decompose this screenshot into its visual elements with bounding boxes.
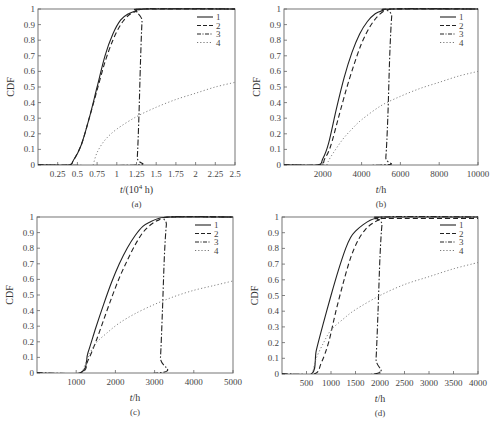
x-tick-label: 500 [300,378,314,388]
y-tick-label: 0.3 [24,113,36,123]
series-line-2 [37,217,233,374]
y-tick-label: 0.5 [270,82,282,92]
y-tick-label: 0.8 [268,243,280,253]
series-line-4 [93,82,235,165]
x-tick-label: 0.75 [89,169,105,179]
y-tick-label: 0.5 [268,291,280,301]
y-tick-label: 0 [277,160,282,170]
series-line-3 [284,8,478,165]
cdf-figure: 00.10.20.30.40.50.60.70.80.910.250.50.75… [0,0,494,425]
y-tick-label: 0.9 [24,20,36,30]
x-axis-label: t/(104 h) [120,183,153,196]
y-tick-label: 0.1 [24,144,35,154]
series-line-4 [327,71,478,165]
y-tick-label: 0.5 [23,290,35,300]
axes-frame [284,9,478,165]
axes-frame [38,9,235,165]
series-line-3 [37,216,233,374]
y-axis-label: CDF [5,77,16,97]
y-tick-label: 0.6 [24,66,36,76]
series-line-1 [37,217,233,375]
series-line-1 [38,9,235,165]
y-tick-label: 0.8 [270,35,282,45]
y-tick-label: 0.6 [268,275,280,285]
y-tick-label: 1 [277,4,282,14]
y-tick-label: 0.7 [24,51,36,61]
x-tick-label: 8000 [430,169,449,179]
y-tick-label: 0.9 [268,228,280,238]
y-tick-label: 0.5 [24,82,36,92]
x-tick-label: 3000 [146,377,165,387]
panel-label: (c) [130,407,140,417]
legend-label: 4 [459,246,464,256]
legend-label: 4 [214,246,219,256]
x-tick-label: 2.5 [229,169,241,179]
y-tick-label: 0 [275,369,280,379]
x-axis-label: t/h [375,393,386,404]
y-tick-label: 0.3 [270,113,282,123]
panel-a: 00.10.20.30.40.50.60.70.80.910.250.50.75… [5,4,241,209]
x-tick-label: 2000 [314,169,333,179]
series-line-1 [284,9,478,166]
x-tick-label: 2000 [371,378,390,388]
x-tick-label: 2500 [396,378,415,388]
x-tick-label: 2000 [106,377,125,387]
x-tick-label: 1.25 [129,169,145,179]
panel-label: (a) [132,199,142,209]
y-tick-label: 0.7 [270,51,282,61]
axes-frame [37,217,233,373]
x-axis-label: t/h [376,184,387,195]
x-tick-label: 1.75 [168,169,184,179]
axes-frame [282,217,478,374]
series-line-4 [312,263,478,374]
y-tick-label: 0.8 [23,243,35,253]
y-tick-label: 0.9 [23,228,35,238]
y-tick-label: 0.4 [268,306,280,316]
y-axis-label: CDF [249,285,260,305]
panel-label: (b) [376,199,387,209]
panel-c: 00.10.20.30.40.50.60.70.80.9110002000300… [4,212,243,417]
y-tick-label: 0.3 [268,322,280,332]
panel-b: 00.10.20.30.40.50.60.70.80.9120004000600… [251,4,490,209]
y-axis-label: CDF [251,77,262,97]
y-tick-label: 1 [31,4,36,14]
x-tick-label: 0.25 [50,169,66,179]
y-tick-label: 0.4 [24,98,36,108]
y-tick-label: 0.4 [23,306,35,316]
y-tick-label: 0.7 [23,259,35,269]
x-tick-label: 4000 [185,377,204,387]
y-tick-label: 0 [30,368,35,378]
y-tick-label: 0.1 [23,352,34,362]
y-tick-label: 0.3 [23,321,35,331]
x-tick-label: 1500 [347,378,366,388]
x-tick-label: 1 [115,169,120,179]
series-line-2 [284,9,478,166]
x-tick-label: 4000 [469,378,488,388]
y-tick-label: 0.4 [270,98,282,108]
y-tick-label: 0.6 [23,274,35,284]
x-axis-label: t/h [130,392,141,403]
legend-label: 4 [459,38,464,48]
y-tick-label: 0.2 [24,129,35,139]
x-tick-label: 10000 [467,169,490,179]
legend-label: 4 [216,38,221,48]
x-tick-label: 3000 [420,378,439,388]
y-tick-label: 0.2 [270,129,281,139]
panel-d: 00.10.20.30.40.50.60.70.80.9150010001500… [249,212,488,418]
x-tick-label: 1.5 [151,169,163,179]
x-tick-label: 0.5 [72,169,84,179]
series-line-4 [82,281,233,373]
x-tick-label: 1000 [67,377,86,387]
series-line-3 [38,8,235,165]
x-tick-label: 2.25 [207,169,223,179]
y-tick-label: 0.1 [268,353,279,363]
y-tick-label: 0.1 [270,144,281,154]
y-tick-label: 0.2 [23,337,34,347]
x-tick-label: 2 [193,169,198,179]
y-tick-label: 0 [31,160,36,170]
y-tick-label: 0.8 [24,35,36,45]
y-tick-label: 0.9 [270,20,282,30]
x-tick-label: 1000 [322,378,341,388]
y-tick-label: 1 [30,212,35,222]
y-tick-label: 0.6 [270,66,282,76]
